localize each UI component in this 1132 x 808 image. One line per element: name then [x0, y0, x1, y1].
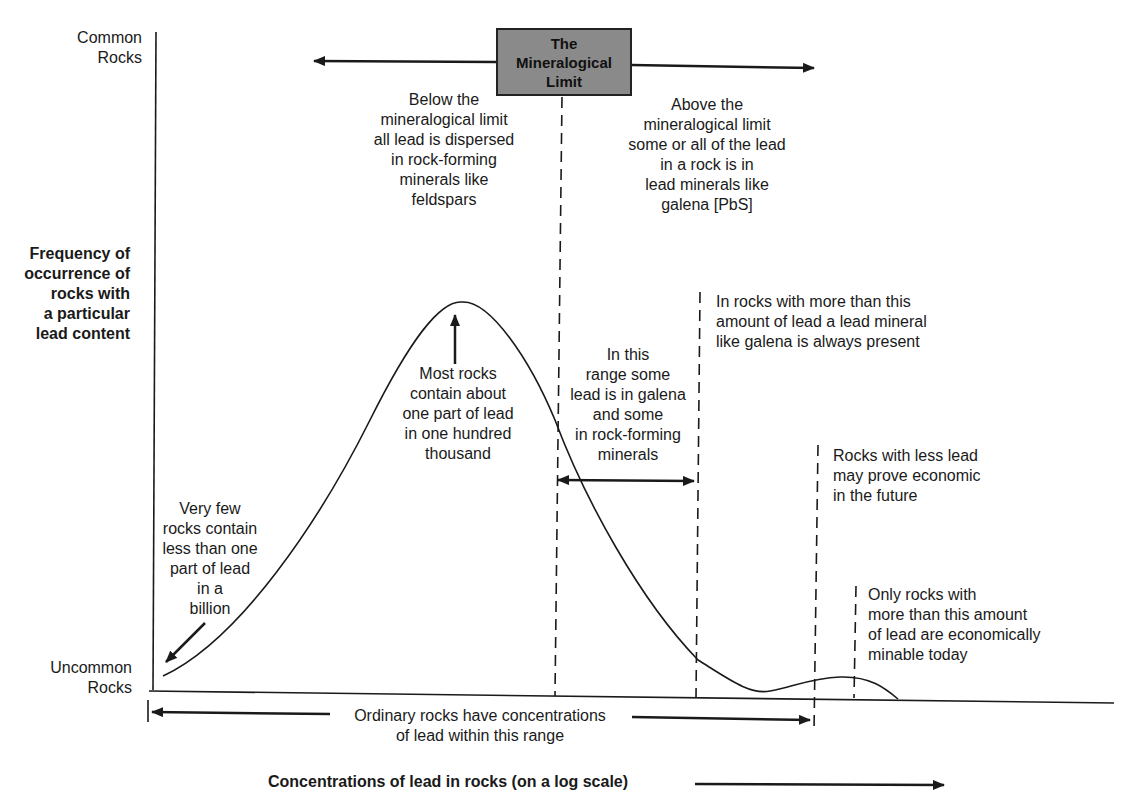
frequency-curve [163, 302, 898, 699]
x-axis-title: Concentrations of lead in rocks (on a lo… [268, 772, 628, 792]
above-limit-arrow [632, 65, 814, 68]
peak-note: Most rocks contain about one part of lea… [388, 364, 528, 464]
ordinary-range-arrow-right [632, 717, 810, 720]
low-tail-note: Very few rocks contain less than one par… [154, 499, 266, 619]
below-limit-note: Below the mineralogical limit all lead i… [344, 90, 544, 210]
minable-today-note: Only rocks with more than this amount of… [868, 585, 1041, 665]
uncommon-rocks-label: Uncommon Rocks [30, 658, 132, 698]
mixed-range-arrow [558, 480, 694, 481]
ordinary-range-note: Ordinary rocks have concentrations of le… [320, 706, 640, 746]
low-tail-arrow [166, 623, 205, 662]
galena-always-note: In rocks with more than this amount of l… [716, 292, 927, 352]
common-rocks-label: Common Rocks [40, 28, 142, 68]
mixed-range-note: In this range some lead is in galena and… [560, 345, 696, 465]
ordinary-upper-line [814, 445, 818, 732]
x-axis-line [149, 691, 1114, 703]
y-axis-title: Frequency of occurrence of rocks with a … [0, 244, 130, 344]
mineralogical-limit-box: The Mineralogical Limit [496, 28, 632, 96]
galena-always-line [696, 292, 700, 698]
future-economic-note: Rocks with less lead may prove economic … [833, 446, 981, 506]
below-limit-arrow [314, 61, 496, 62]
ordinary-range-arrow-left [152, 712, 330, 714]
lead-concentration-diagram: Common Rocks Frequency of occurrence of … [0, 0, 1132, 808]
minable-today-line [854, 586, 856, 698]
x-axis-title-arrow [695, 784, 944, 785]
above-limit-note: Above the mineralogical limit some or al… [600, 95, 814, 215]
